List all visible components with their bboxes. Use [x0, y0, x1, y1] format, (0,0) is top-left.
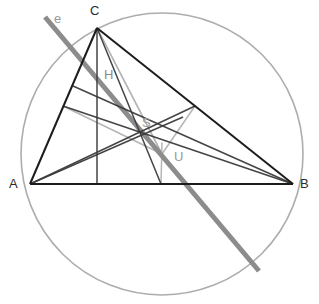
- diagram-canvas: [0, 0, 319, 304]
- point-label-U: U: [174, 150, 183, 163]
- segment-altitude-from-B: [73, 86, 293, 184]
- point-label-B: B: [300, 177, 309, 190]
- geometry-figure: A B C H S U e: [0, 0, 319, 304]
- segment-side-CB: [97, 28, 293, 184]
- euler-line-e: [45, 17, 259, 271]
- segment-perp-bisector-AC: [63, 106, 162, 154]
- point-label-H: H: [104, 68, 113, 81]
- euler-line-label: e: [54, 12, 61, 25]
- point-label-C: C: [90, 4, 99, 17]
- point-label-S: S: [142, 116, 151, 129]
- segment-median-from-C: [97, 28, 161, 184]
- segment-side-AC: [30, 28, 97, 184]
- segment-median-from-A: [30, 106, 195, 184]
- segment-perp-bisector-AB: [161, 143, 162, 184]
- point-label-A: A: [9, 177, 18, 190]
